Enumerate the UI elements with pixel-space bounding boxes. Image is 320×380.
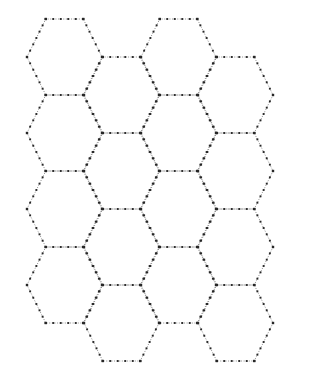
edge-dot bbox=[223, 284, 225, 286]
hexagon-vertex-dot bbox=[140, 132, 142, 134]
edge-dot bbox=[206, 303, 208, 305]
hexagon-vertex-dot bbox=[140, 284, 142, 286]
edge-dot bbox=[260, 195, 262, 197]
edge-dot bbox=[98, 50, 100, 52]
edge-dot bbox=[132, 208, 134, 210]
edge-dot bbox=[181, 246, 183, 248]
edge-dot bbox=[52, 94, 54, 96]
edge-dot bbox=[156, 164, 158, 166]
edge-dot bbox=[143, 62, 145, 64]
hexagon-vertex-dot bbox=[140, 208, 142, 210]
hexagon-vertex-dot bbox=[159, 94, 161, 96]
hexagon-vertex-dot bbox=[216, 132, 218, 134]
edge-dot bbox=[174, 18, 176, 20]
edge-dot bbox=[124, 208, 126, 210]
edge-dot bbox=[132, 56, 134, 58]
edge-dot bbox=[96, 145, 98, 147]
hexagon-vertex-dot bbox=[272, 246, 274, 248]
edge-dot bbox=[210, 347, 212, 349]
edge-dot bbox=[166, 322, 168, 324]
edge-dot bbox=[109, 284, 111, 286]
hexagon-vertex-dot bbox=[83, 246, 85, 248]
edge-dot bbox=[256, 354, 258, 356]
edge-dot bbox=[231, 56, 233, 58]
edge-dot bbox=[39, 81, 41, 83]
edge-dot bbox=[256, 278, 258, 280]
hexagon-vertex-dot bbox=[216, 284, 218, 286]
edge-dot bbox=[260, 347, 262, 349]
edge-dot bbox=[166, 94, 168, 96]
edge-dot bbox=[266, 183, 268, 185]
edge-dot bbox=[35, 189, 37, 191]
edge-dot bbox=[149, 265, 151, 267]
edge-dot bbox=[60, 18, 62, 20]
edge-dot bbox=[223, 208, 225, 210]
edge-dot bbox=[143, 50, 145, 52]
edge-dot bbox=[200, 88, 202, 90]
edge-dot bbox=[156, 176, 158, 178]
edge-dot bbox=[117, 208, 119, 210]
edge-dot bbox=[156, 100, 158, 102]
edge-dot bbox=[223, 360, 225, 362]
edge-dot bbox=[96, 297, 98, 299]
hexagon-vertex-dot bbox=[159, 322, 161, 324]
edge-dot bbox=[35, 113, 37, 115]
edge-dot bbox=[263, 227, 265, 229]
edge-dot bbox=[96, 69, 98, 71]
edge-dot bbox=[39, 233, 41, 235]
edge-dot bbox=[60, 94, 62, 96]
edge-dot bbox=[210, 297, 212, 299]
edge-dot bbox=[203, 233, 205, 235]
edge-dot bbox=[42, 252, 44, 254]
edge-dot bbox=[238, 56, 240, 58]
edge-dot bbox=[86, 316, 88, 318]
edge-dot bbox=[166, 246, 168, 248]
edge-dot bbox=[29, 278, 31, 280]
hexagon-vertex-dot bbox=[253, 132, 255, 134]
edge-dot bbox=[109, 360, 111, 362]
edge-dot bbox=[181, 18, 183, 20]
edge-dot bbox=[189, 246, 191, 248]
edge-dot bbox=[143, 126, 145, 128]
hexagon-vertex-dot bbox=[272, 322, 274, 324]
edge-dot bbox=[203, 309, 205, 311]
hexagon-vertex-dot bbox=[45, 322, 47, 324]
edge-dot bbox=[269, 88, 271, 90]
edge-dot bbox=[143, 138, 145, 140]
edge-dot bbox=[92, 303, 94, 305]
edge-dot bbox=[206, 227, 208, 229]
edge-dot bbox=[200, 176, 202, 178]
edge-dot bbox=[32, 119, 34, 121]
hexagon-vertex-dot bbox=[45, 94, 47, 96]
edge-dot bbox=[256, 138, 258, 140]
hexagon-vertex-dot bbox=[196, 18, 198, 20]
hexagon-vertex-dot bbox=[253, 56, 255, 58]
edge-dot bbox=[75, 170, 77, 172]
edge-dot bbox=[92, 75, 94, 77]
hexagon-vertex-dot bbox=[26, 208, 28, 210]
edge-dot bbox=[35, 227, 37, 229]
edge-dot bbox=[89, 81, 91, 83]
edge-dot bbox=[96, 195, 98, 197]
hexagon-vertex-dot bbox=[82, 18, 84, 20]
hexagon-vertex-dot bbox=[253, 208, 255, 210]
edge-dot bbox=[209, 43, 211, 45]
edge-dot bbox=[166, 18, 168, 20]
hexagon-vertex-dot bbox=[197, 94, 199, 96]
edge-dot bbox=[75, 246, 77, 248]
edge-dot bbox=[223, 56, 225, 58]
edge-dot bbox=[153, 259, 155, 261]
edge-dot bbox=[96, 271, 98, 273]
edge-dot bbox=[86, 328, 88, 330]
hexagon-vertex-dot bbox=[102, 284, 104, 286]
edge-dot bbox=[246, 360, 248, 362]
edge-dot bbox=[67, 246, 69, 248]
hexagon-vertex-dot bbox=[159, 170, 161, 172]
edge-dot bbox=[200, 164, 202, 166]
hexagon-vertex-dot bbox=[45, 18, 47, 20]
edge-dot bbox=[260, 119, 262, 121]
edge-dot bbox=[32, 297, 34, 299]
edge-dot bbox=[42, 24, 44, 26]
edge-dot bbox=[153, 107, 155, 109]
edge-dot bbox=[189, 18, 191, 20]
